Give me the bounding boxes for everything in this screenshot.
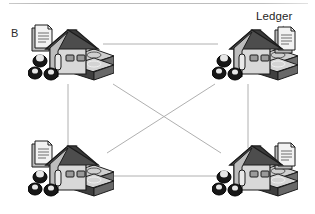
property-node-bottom-left[interactable] [28, 140, 114, 202]
property-node-top-left[interactable] [28, 24, 114, 86]
edge-diagonal-up [107, 84, 215, 153]
panel-label: B [11, 27, 19, 39]
ledger-annotation-label: Ledger [256, 10, 292, 23]
property-node-top-right[interactable] [212, 24, 298, 86]
figure-canvas: B Ledger [0, 0, 315, 214]
property-node-bottom-right[interactable] [212, 140, 298, 202]
edge-diagonal-down [113, 84, 221, 153]
